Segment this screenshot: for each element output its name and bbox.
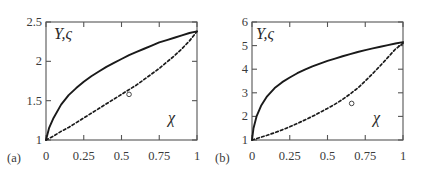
x-tick-label: 1 [386, 150, 420, 163]
y-tick-label: 4 [214, 63, 248, 76]
y-axis-title-a: Y,ς [54, 26, 72, 42]
y-tick-label: 5 [214, 40, 248, 53]
data-curves-b [252, 42, 403, 140]
data-markers-a [127, 92, 132, 97]
data-point-marker [349, 101, 354, 106]
x-axis-title-b: χ [373, 110, 380, 126]
x-tick-label: 0.5 [311, 150, 345, 163]
x-tick-label: 0 [235, 150, 269, 163]
x-tick-label: 0 [29, 150, 63, 163]
plot-frame-b [252, 22, 403, 140]
figure: Y,ς χ (a) 11.522.5 00.250.50.751 Y,ς χ (… [0, 0, 421, 171]
x-tick-label: 0.5 [105, 150, 139, 163]
x-tick-label: 0.25 [273, 150, 307, 163]
y-tick-label: 1.5 [8, 95, 42, 108]
x-tick-label: 0.25 [67, 150, 101, 163]
chart-panel-b: Y,ς χ (b) 123456 00.250.50.751 [211, 0, 421, 171]
data-point-marker [127, 92, 132, 97]
y-tick-label: 2 [214, 110, 248, 123]
series-Y [252, 42, 403, 140]
x-tick-label: 0.75 [142, 150, 176, 163]
x-axis-title-a: χ [168, 110, 175, 126]
y-tick-label: 3 [214, 87, 248, 100]
y-tick-label: 2 [8, 55, 42, 68]
axis-ticks-b [252, 22, 403, 140]
y-tick-label: 6 [214, 16, 248, 29]
panel-tag-b: (b) [215, 152, 230, 165]
panel-tag-a: (a) [7, 152, 21, 165]
x-tick-label: 0.75 [348, 150, 382, 163]
y-tick-label: 1 [8, 134, 42, 147]
y-tick-label: 1 [214, 134, 248, 147]
series-ς [252, 43, 403, 140]
y-axis-title-b: Y,ς [256, 26, 274, 42]
data-markers-b [349, 101, 354, 106]
chart-panel-a: Y,ς χ (a) 11.522.5 00.250.50.751 [0, 0, 211, 171]
y-tick-label: 2.5 [8, 16, 42, 29]
x-tick-label: 1 [180, 150, 214, 163]
